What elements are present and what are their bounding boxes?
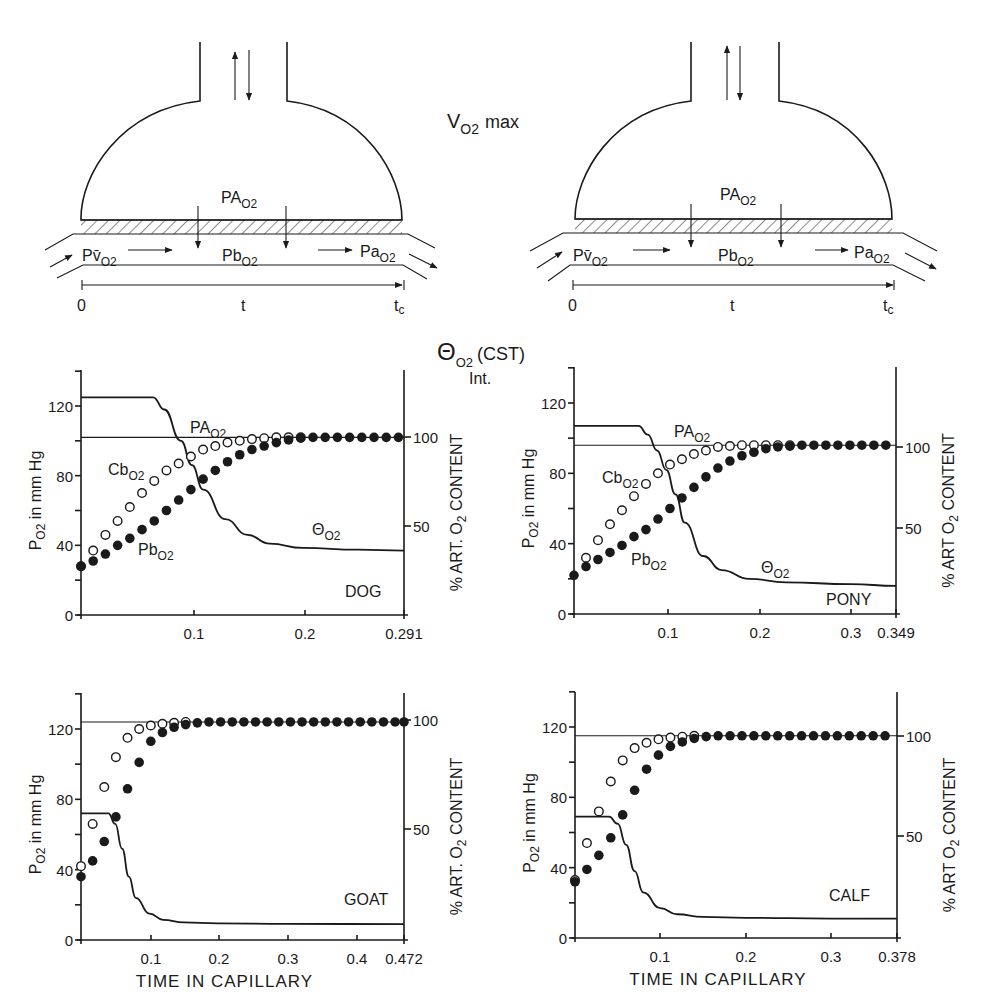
pbo2-point xyxy=(162,506,172,516)
pbo2-point xyxy=(169,722,179,732)
pbo2-point xyxy=(773,731,783,741)
cbo2-point xyxy=(642,739,651,748)
y-tick-label: 0 xyxy=(65,607,73,624)
animal-label: CALF xyxy=(829,887,870,904)
pbo2-point xyxy=(76,872,86,882)
y-tick-label: 120 xyxy=(541,395,566,412)
pbo2-point xyxy=(99,837,109,847)
x-tick-label: 0.1 xyxy=(650,948,671,965)
cbo2-point xyxy=(248,435,257,444)
pbo2-point xyxy=(737,451,747,461)
x-tick-label: 0.3 xyxy=(278,950,299,967)
cbo2-point xyxy=(235,437,244,446)
y2-axis-label: % ART O2 CONTENT xyxy=(941,757,962,912)
y2-tick-label: 100 xyxy=(413,712,438,729)
time-end-label: tc xyxy=(883,297,893,317)
cbo2-point xyxy=(199,445,208,454)
pbo2-point xyxy=(158,728,168,738)
y2-tick-label: 50 xyxy=(413,518,430,535)
y-tick-label: 80 xyxy=(56,791,73,808)
pbo2-point xyxy=(701,472,711,482)
pbo2-point xyxy=(113,541,123,551)
cbo2-point xyxy=(112,753,121,762)
pbo2-point xyxy=(725,456,735,466)
pbo2-point xyxy=(134,758,144,768)
x-axis-title: TIME IN CAPILLARY xyxy=(629,970,806,989)
y-axis-label: PO2 in mm Hg xyxy=(27,451,48,551)
pbo2-point xyxy=(582,865,592,875)
cbo2-point xyxy=(642,480,651,489)
x-axis-title: TIME IN CAPILLARY xyxy=(136,972,313,991)
pbo2-point xyxy=(678,737,688,747)
pbo2-point xyxy=(357,433,367,443)
pbo2-point xyxy=(309,717,319,727)
y-tick-label: 40 xyxy=(549,536,566,553)
pbo2-point xyxy=(844,731,854,741)
cbo2-point xyxy=(174,459,183,468)
pbo2-point xyxy=(797,440,807,450)
cbo2-point xyxy=(582,553,591,562)
pbo2-point xyxy=(593,555,603,565)
cbo2-point xyxy=(113,517,122,526)
x-tick-label: 0.1 xyxy=(141,950,162,967)
pbo2-point xyxy=(868,731,878,741)
pbo2-point xyxy=(76,561,86,571)
y2-tick-label: 100 xyxy=(905,439,930,456)
chart-calf: 04080120100500.10.20.30.378PO2 in mm Hg%… xyxy=(521,692,962,989)
cbo2-point xyxy=(702,446,711,455)
x-tick-label: 0.4 xyxy=(347,950,368,967)
pbo2-point xyxy=(642,764,652,774)
time-start-label: 0 xyxy=(77,297,86,314)
cbo2-point xyxy=(618,506,627,515)
y-tick-label: 120 xyxy=(48,398,73,415)
pbo2-point xyxy=(761,731,771,741)
pbo2-point xyxy=(713,731,723,741)
pbo2-point xyxy=(345,433,355,443)
pbo2-point xyxy=(235,450,245,460)
pbo2-point xyxy=(137,525,147,535)
x-tick-label: 0.3 xyxy=(841,624,862,641)
int-label: Int. xyxy=(469,370,491,387)
pbo2-point xyxy=(773,442,783,452)
y-tick-label: 40 xyxy=(56,537,73,554)
pbo2-point xyxy=(785,731,795,741)
y-tick-label: 0 xyxy=(559,930,567,947)
pbo2-point xyxy=(821,440,831,450)
pbo2-point xyxy=(332,717,342,727)
pbo2-point xyxy=(809,731,819,741)
y-tick-label: 40 xyxy=(550,860,567,877)
pbo2-point xyxy=(617,541,627,551)
pbo2-point xyxy=(204,717,214,727)
pbo2-point xyxy=(193,718,203,728)
pvo2-label: Pv̄O2 xyxy=(573,247,608,269)
pbo2-point xyxy=(725,731,735,741)
cbo2-point xyxy=(618,756,627,765)
time-mid-label: t xyxy=(241,297,246,314)
vo2-max-label: VO2max xyxy=(447,110,519,137)
pbo2-point xyxy=(333,433,343,443)
x-tick-label: 0.378 xyxy=(878,948,916,965)
y-axis-label: PO2 in mm Hg xyxy=(520,449,541,549)
pbo2-point xyxy=(845,440,855,450)
pbo2-point xyxy=(737,731,747,741)
y2-tick-label: 50 xyxy=(413,821,430,838)
cbo2-point xyxy=(162,466,171,475)
y-axis-label: PO2 in mm Hg xyxy=(521,773,542,873)
animal-label: DOG xyxy=(345,583,381,600)
cbo2-annotation: CbO2 xyxy=(108,461,145,483)
cbo2-point xyxy=(123,733,132,742)
x-tick-label: 0.2 xyxy=(736,948,757,965)
pbo2-annotation: PbO2 xyxy=(138,541,174,563)
cbo2-point xyxy=(654,735,663,744)
cbo2-point xyxy=(606,777,615,786)
pbo2-point xyxy=(701,732,711,742)
x-tick-label: 0.3 xyxy=(821,948,842,965)
y-axis-label: PO2 in mm Hg xyxy=(27,775,48,875)
pbo2-point xyxy=(881,440,891,450)
pao2-arterial-label: PaO2 xyxy=(854,244,890,266)
pbo2-point xyxy=(216,717,226,727)
pbo2-point xyxy=(146,737,156,747)
cbo2-point xyxy=(126,503,135,512)
theta-cst-label: ΘO2(CST) xyxy=(437,338,525,370)
cbo2-point xyxy=(594,536,603,545)
